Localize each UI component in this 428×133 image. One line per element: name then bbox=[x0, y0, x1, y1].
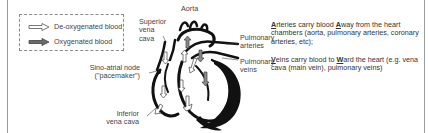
label-sino-atrial-node: Sino-atrial node ("pacemaker") bbox=[90, 64, 140, 81]
label-pulmonary-veins: Pulmonary veins bbox=[240, 58, 274, 75]
label-aorta: Aorta bbox=[181, 5, 198, 13]
label-superior-vena-cava: Superior vena cava bbox=[139, 18, 166, 43]
label-pulmonary-arteries: Pulmonary arteries bbox=[240, 34, 274, 51]
note-arteries: Arteries carry blood Away from the heart… bbox=[271, 21, 421, 46]
label-inferior-vena-cava: Inferior vena cava bbox=[106, 110, 139, 127]
note-veins: Veins carry blood to Ward the heart (e.g… bbox=[271, 56, 421, 73]
